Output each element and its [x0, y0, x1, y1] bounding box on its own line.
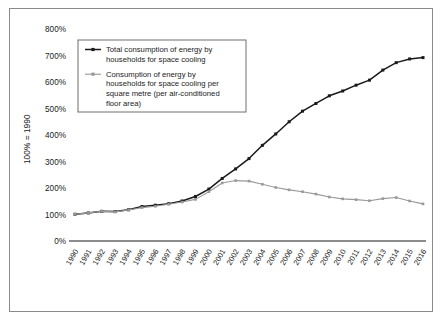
y-axis-tick-label: 700% [45, 52, 66, 61]
chart-canvas: 0%100%200%300%400%500%600%700%800%100% =… [10, 9, 432, 311]
y-axis-tick-label: 0% [54, 237, 66, 246]
x-axis-tick-label: 1997 [158, 248, 174, 267]
data-point-marker [207, 188, 210, 191]
data-point-marker [288, 120, 291, 123]
x-axis-tick-label: 1992 [91, 248, 107, 267]
data-point-marker [422, 203, 425, 206]
data-point-marker [368, 199, 371, 202]
data-point-marker [167, 203, 170, 206]
data-point-marker [422, 56, 425, 59]
data-point-marker [341, 90, 344, 93]
data-point-marker [261, 183, 264, 186]
data-point-marker [301, 190, 304, 193]
data-point-marker [395, 61, 398, 64]
legend-label: square metre (per air-conditioned [106, 89, 220, 98]
x-axis-tick-label: 2002 [225, 248, 241, 267]
data-point-marker [355, 84, 358, 87]
x-axis-tick-label: 2007 [292, 248, 308, 267]
data-point-marker [382, 197, 385, 200]
y-axis-tick-label: 100% [45, 211, 66, 220]
data-point-marker [74, 213, 77, 216]
x-axis-tick-label: 2012 [358, 248, 374, 267]
data-point-marker [87, 212, 90, 215]
x-axis-tick-label: 1996 [144, 248, 160, 267]
data-point-marker [248, 180, 251, 183]
data-point-marker [274, 132, 277, 135]
data-point-marker [194, 198, 197, 201]
x-axis-tick-label: 2016 [412, 248, 428, 267]
data-point-marker [181, 201, 184, 204]
x-axis-tick-label: 1991 [77, 248, 93, 267]
x-axis-tick-label: 2014 [385, 248, 401, 267]
y-axis-tick-label: 500% [45, 105, 66, 114]
data-point-marker [274, 186, 277, 189]
x-axis-tick-label: 2006 [278, 248, 294, 267]
data-point-marker [355, 198, 358, 201]
y-axis-tick-label: 800% [45, 25, 66, 34]
x-axis-tick-label: 2003 [238, 248, 254, 267]
data-point-marker [194, 195, 197, 198]
y-axis-tick-label: 400% [45, 131, 66, 140]
data-point-marker [154, 205, 157, 208]
y-axis-tick-label: 600% [45, 78, 66, 87]
y-axis-tick-label: 200% [45, 184, 66, 193]
legend-label: households for space cooling per [106, 79, 219, 88]
data-point-marker [301, 110, 304, 113]
x-axis-tick-label: 1993 [104, 248, 120, 267]
line-chart: 0%100%200%300%400%500%600%700%800%100% =… [10, 9, 432, 311]
legend-marker-swatch [91, 73, 94, 76]
data-point-marker [127, 209, 130, 212]
data-point-marker [141, 206, 144, 209]
data-point-marker [328, 196, 331, 199]
data-point-marker [248, 157, 251, 160]
y-axis-title: 100% = 1990 [22, 114, 32, 164]
legend-label: floor area) [106, 99, 141, 108]
x-axis-tick-label: 2004 [251, 248, 267, 267]
data-point-marker [288, 189, 291, 192]
x-axis-tick-label: 2008 [305, 248, 321, 267]
x-axis-tick-label: 2005 [265, 248, 281, 267]
x-axis-tick-label: 1994 [118, 248, 134, 267]
data-point-marker [395, 196, 398, 199]
data-point-marker [341, 198, 344, 201]
x-axis-tick-label: 2009 [318, 248, 334, 267]
legend-label: Total consumption of energy by [106, 45, 213, 54]
x-axis-tick-label: 1990 [64, 248, 80, 267]
x-axis-tick-label: 2010 [332, 248, 348, 267]
data-point-marker [328, 94, 331, 97]
data-point-marker [408, 200, 411, 203]
data-point-marker [261, 144, 264, 147]
data-point-marker [315, 193, 318, 196]
data-point-marker [100, 210, 103, 213]
x-axis-tick-label: 2015 [399, 248, 415, 267]
x-axis-tick-label: 2013 [372, 248, 388, 267]
data-point-marker [314, 102, 317, 105]
data-point-marker [114, 211, 117, 214]
data-point-marker [368, 79, 371, 82]
legend-marker-swatch [91, 48, 94, 51]
x-axis-tick-label: 1999 [184, 248, 200, 267]
data-point-marker [234, 167, 237, 170]
chart-figure: 0%100%200%300%400%500%600%700%800%100% =… [9, 8, 433, 312]
x-axis-tick-label: 1995 [131, 248, 147, 267]
data-point-marker [221, 177, 224, 180]
x-axis-tick-label: 2001 [211, 248, 227, 267]
legend-label: Consumption of energy by [106, 70, 196, 79]
data-point-marker [221, 182, 224, 185]
legend-label: households for space cooling [106, 55, 206, 64]
data-point-marker [208, 190, 211, 193]
series-group [74, 179, 425, 215]
x-axis-tick-label: 2000 [198, 248, 214, 267]
data-point-marker [381, 69, 384, 72]
data-point-marker [408, 57, 411, 60]
y-axis-tick-label: 300% [45, 158, 66, 167]
data-point-marker [234, 179, 237, 182]
x-axis-tick-label: 1998 [171, 248, 187, 267]
